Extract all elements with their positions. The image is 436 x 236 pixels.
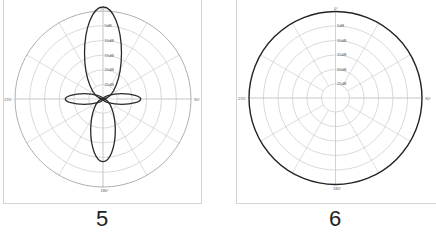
radial-label: 15dB <box>337 52 347 57</box>
radial-label: 10dB <box>337 38 347 43</box>
angle-label-180: 180° <box>101 188 110 193</box>
polar-plot-5: 5dB10dB15dB20dB25dB0°90°180°270° <box>4 6 200 194</box>
angle-label-0: 0° <box>334 6 338 11</box>
radial-label: 10dB <box>105 38 115 43</box>
polar-plot-6: 5dB10dB15dB20dB25dB0°90°180°270° <box>238 6 431 191</box>
angle-label-90: 90° <box>425 96 431 101</box>
radial-label: 5dB <box>337 23 344 28</box>
figure-caption-6: 6 <box>315 206 355 232</box>
angle-label-0: 0° <box>102 6 106 11</box>
radial-label: 5dB <box>105 23 112 28</box>
figure-caption-5: 5 <box>82 206 122 232</box>
radial-label: 25dB <box>105 82 115 87</box>
radial-label: 15dB <box>105 53 115 58</box>
radial-label: 20dB <box>105 67 115 72</box>
radial-label: 25dB <box>337 81 347 86</box>
angle-label-270: 270° <box>238 96 247 101</box>
angle-label-270: 270° <box>4 97 13 102</box>
angle-label-90: 90° <box>194 97 200 102</box>
angle-label-180: 180° <box>333 186 342 191</box>
radial-label: 20dB <box>337 67 347 72</box>
polar-plots-svg: 5dB10dB15dB20dB25dB0°90°180°270° 5dB10dB… <box>0 0 436 236</box>
